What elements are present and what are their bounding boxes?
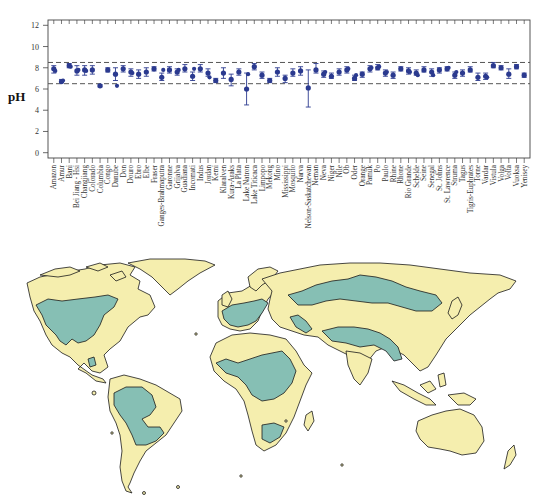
data-point — [275, 68, 280, 76]
data-point — [259, 72, 264, 78]
data-point — [221, 68, 226, 79]
y-axis-label: pH — [8, 89, 25, 104]
y-tick-label: 4 — [35, 106, 39, 115]
data-point — [321, 70, 327, 77]
data-point — [128, 69, 134, 76]
data-point — [329, 73, 334, 79]
data-point — [429, 69, 435, 77]
island — [240, 475, 242, 477]
data-point — [360, 72, 365, 78]
data-point — [298, 67, 303, 75]
data-point — [491, 62, 496, 68]
data-point — [514, 64, 519, 69]
data-point — [90, 66, 95, 74]
data-point — [190, 67, 196, 81]
data-point — [144, 68, 149, 76]
data-point — [213, 78, 218, 83]
data-point — [105, 67, 110, 72]
data-point — [167, 67, 172, 73]
data-point — [352, 73, 358, 81]
data-point — [151, 66, 156, 71]
y-tick-label: 10 — [31, 43, 39, 52]
data-point — [460, 70, 465, 76]
x-axis: AmazonAmurBaniBei Jiang - HsiChangjiangC… — [50, 20, 528, 228]
data-point — [344, 67, 350, 73]
map-landmasses — [27, 259, 516, 495]
data-point — [267, 78, 272, 83]
data-point — [313, 64, 318, 74]
data-point — [198, 65, 203, 72]
data-point — [398, 66, 403, 71]
island — [92, 391, 96, 395]
y-tick-label: 0 — [35, 149, 39, 158]
data-point — [468, 67, 473, 73]
ph-chart: 024681012 AmazonAmurBaniBei Jiang - HsiC… — [0, 0, 539, 255]
data-point — [82, 66, 88, 76]
new-guinea-land — [448, 393, 476, 405]
data-point — [97, 83, 102, 88]
plot-frame — [48, 20, 530, 158]
data-point — [252, 64, 257, 70]
data-point — [74, 66, 80, 76]
data-point — [437, 67, 442, 73]
new-zealand-land — [504, 445, 516, 469]
data-point — [367, 66, 373, 72]
data-point — [236, 69, 241, 75]
data-point — [337, 69, 342, 75]
africa-south-basin — [262, 423, 284, 443]
data-point — [421, 67, 426, 73]
plot-border — [48, 20, 530, 158]
data-point — [406, 68, 412, 74]
island — [177, 486, 180, 489]
island — [341, 464, 343, 466]
world-map — [0, 255, 539, 498]
data-point — [136, 70, 141, 78]
data-point — [383, 70, 389, 76]
data-point — [306, 70, 311, 107]
y-tick-label: 12 — [31, 21, 39, 30]
island — [111, 432, 113, 434]
data-point — [483, 73, 489, 79]
data-point — [290, 69, 295, 76]
greenland-land — [128, 259, 215, 295]
data-point — [175, 68, 181, 75]
data-point — [113, 68, 119, 88]
y-axis: 024681012 — [31, 21, 48, 157]
data-point — [522, 73, 527, 78]
data-point — [498, 65, 503, 70]
data-point — [205, 69, 211, 80]
y-tick-label: 6 — [35, 85, 39, 94]
data-point — [244, 72, 250, 105]
data-point — [414, 70, 420, 77]
data-point — [506, 69, 511, 79]
x-tick-label: Yenisey — [521, 165, 529, 188]
y-tick-label: 8 — [35, 64, 39, 73]
data-point — [444, 66, 450, 72]
data-point — [51, 66, 57, 73]
data-point — [159, 68, 165, 81]
island — [143, 492, 146, 495]
data-points — [51, 62, 527, 107]
data-point — [121, 66, 126, 72]
island — [285, 420, 287, 422]
data-point — [391, 72, 396, 78]
data-point — [375, 65, 381, 71]
y-tick-label: 2 — [35, 127, 39, 136]
data-point — [452, 70, 458, 78]
madagascar-land — [304, 411, 314, 431]
indonesia-land — [392, 373, 446, 405]
data-point — [182, 65, 187, 72]
data-point — [475, 73, 480, 80]
data-point — [67, 63, 73, 69]
island — [195, 333, 197, 335]
data-point — [283, 75, 288, 82]
australia-land — [416, 409, 484, 455]
